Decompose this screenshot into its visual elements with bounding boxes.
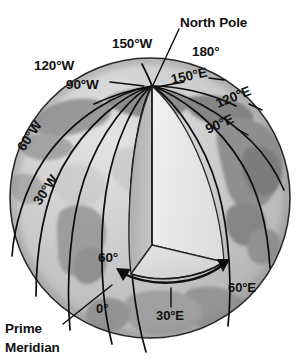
label-30E: 30°E <box>156 308 184 323</box>
label-0: 0° <box>96 301 108 316</box>
label-north-pole: North Pole <box>180 15 248 30</box>
label-60E: 60°E <box>228 280 256 295</box>
globe-diagram-svg: 120°W 150°W 180° 90°W 150°E 120°E 90°E 6… <box>0 0 301 363</box>
label-prime-meridian-line2: Meridian <box>5 340 60 355</box>
label-180: 180° <box>192 44 220 59</box>
label-120W: 120°W <box>34 58 75 73</box>
label-wedge-angle: 60° <box>98 250 118 265</box>
label-90W: 90°W <box>66 77 99 92</box>
globe-longitude-figure: 120°W 150°W 180° 90°W 150°E 120°E 90°E 6… <box>0 0 301 363</box>
label-prime-meridian-line1: Prime <box>5 321 43 336</box>
label-150W: 150°W <box>112 36 153 51</box>
